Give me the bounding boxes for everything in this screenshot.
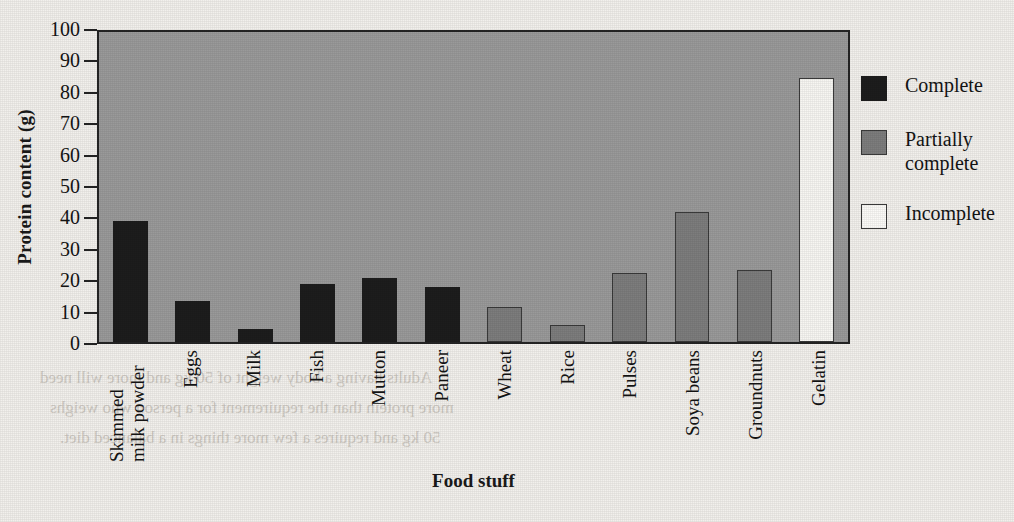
- x-axis-tick-label: Fish: [306, 350, 328, 383]
- legend-label: Incomplete: [905, 202, 995, 226]
- x-axis-tick-label-slot: Pulses: [599, 346, 662, 464]
- y-axis-tick-label: 40: [60, 207, 84, 227]
- x-axis-tick-label: Milk: [243, 350, 265, 387]
- y-axis-tick-label: 80: [60, 82, 84, 102]
- x-axis-tick-label-slot: Groundnuts: [725, 346, 788, 464]
- y-axis-tick-mark: [84, 186, 97, 188]
- bar-slot: [99, 32, 161, 342]
- legend-swatch: [861, 76, 887, 101]
- bar: [612, 273, 647, 342]
- y-axis-tick-mark: [84, 343, 97, 345]
- bar-slot: [286, 32, 348, 342]
- x-axis-tick-label: Groundnuts: [745, 350, 767, 440]
- y-axis-tick-mark: [84, 123, 97, 125]
- bar: [425, 287, 460, 342]
- bar: [487, 307, 522, 342]
- bar: [300, 284, 335, 342]
- x-axis-tick-label-slot: Rice: [536, 346, 599, 464]
- x-axis-tick-label-slot: Soya beans: [662, 346, 725, 464]
- bar-slot: [598, 32, 660, 342]
- bar-slot: [723, 32, 785, 342]
- y-axis-tick-mark: [84, 217, 97, 219]
- y-axis-tick-label: 30: [60, 239, 84, 259]
- plot-area: [97, 30, 850, 344]
- x-axis-tick-label: Wheat: [494, 350, 516, 400]
- x-axis-tick-label: Mutton: [368, 350, 390, 406]
- y-axis-tick-mark: [84, 92, 97, 94]
- bar: [238, 329, 273, 342]
- y-axis-tick-label: 20: [60, 270, 84, 290]
- y-axis-tick-label: 70: [60, 113, 84, 133]
- x-axis-title: Food stuff: [97, 470, 850, 492]
- legend-item: Complete: [861, 74, 1011, 101]
- bar: [675, 212, 710, 342]
- x-axis-tick-label: Rice: [557, 350, 579, 385]
- bar-slot: [411, 32, 473, 342]
- x-axis-tick-label-slot: Gelatin: [787, 346, 850, 464]
- legend-item: Incomplete: [861, 202, 1011, 229]
- bar-slot: [161, 32, 223, 342]
- bar-slot: [349, 32, 411, 342]
- y-axis-tick-label: 0: [70, 333, 84, 353]
- legend-label: Partially complete: [905, 128, 1011, 175]
- bar: [550, 325, 585, 342]
- legend-item: Partially complete: [861, 128, 1011, 175]
- bar: [175, 301, 210, 342]
- x-axis-tick-label-slot: Eggs: [160, 346, 223, 464]
- bar-slot: [474, 32, 536, 342]
- bars-layer: [99, 32, 848, 342]
- bar-slot: [224, 32, 286, 342]
- protein-content-bar-chart: Protein content (g) 10090807060504030201…: [0, 0, 1014, 522]
- x-axis-tick-label: Skimmed milk powder: [108, 350, 149, 462]
- bar: [113, 221, 148, 342]
- y-axis-tick-label: 10: [60, 302, 84, 322]
- bar-slot: [786, 32, 848, 342]
- y-axis-tick-mark: [84, 60, 97, 62]
- y-axis-tick-label: 100: [50, 19, 84, 39]
- y-axis-tick-mark: [84, 249, 97, 251]
- x-axis-tick-label-slot: Skimmed milk powder: [97, 346, 160, 464]
- bar: [737, 270, 772, 342]
- y-axis-tick-mark: [84, 312, 97, 314]
- legend-label: Complete: [905, 74, 983, 98]
- y-axis-tick-label: 90: [60, 50, 84, 70]
- x-axis-tick-label: Gelatin: [808, 350, 830, 406]
- bar: [799, 78, 834, 342]
- x-axis-tick-label: Eggs: [180, 350, 202, 388]
- x-axis-tick-label: Pulses: [619, 350, 641, 399]
- x-axis-tick-label-slot: Mutton: [348, 346, 411, 464]
- y-axis: 1009080706050403020100: [0, 30, 97, 344]
- legend-swatch: [861, 204, 887, 229]
- x-axis-tick-label-slot: Fish: [285, 346, 348, 464]
- x-axis-tick-label-slot: Milk: [223, 346, 286, 464]
- legend-swatch: [861, 130, 887, 155]
- y-axis-tick-mark: [84, 280, 97, 282]
- bar-slot: [661, 32, 723, 342]
- legend: CompletePartially completeIncomplete: [861, 74, 1011, 256]
- x-axis-tick-label: Paneer: [431, 350, 453, 402]
- bar: [362, 278, 397, 342]
- x-axis-tick-label-slot: Wheat: [474, 346, 537, 464]
- x-axis-tick-label: Soya beans: [682, 350, 704, 436]
- y-axis-tick-label: 60: [60, 145, 84, 165]
- y-axis-tick-label: 50: [60, 176, 84, 196]
- y-axis-tick-mark: [84, 155, 97, 157]
- x-axis-tick-labels: Skimmed milk powderEggsMilkFishMuttonPan…: [97, 346, 850, 464]
- x-axis-tick-label-slot: Paneer: [411, 346, 474, 464]
- bar-slot: [536, 32, 598, 342]
- y-axis-tick-mark: [84, 29, 97, 31]
